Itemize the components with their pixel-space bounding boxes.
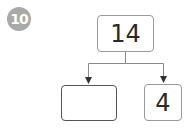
arrow-down-left-icon [85, 77, 92, 84]
part-value-known: 4 [155, 89, 170, 117]
whole-box: 14 [97, 15, 154, 52]
part-box-blank[interactable] [61, 85, 117, 121]
arrow-down-right-icon [160, 76, 167, 83]
part-box-known: 4 [144, 84, 182, 121]
whole-value: 14 [110, 20, 141, 48]
